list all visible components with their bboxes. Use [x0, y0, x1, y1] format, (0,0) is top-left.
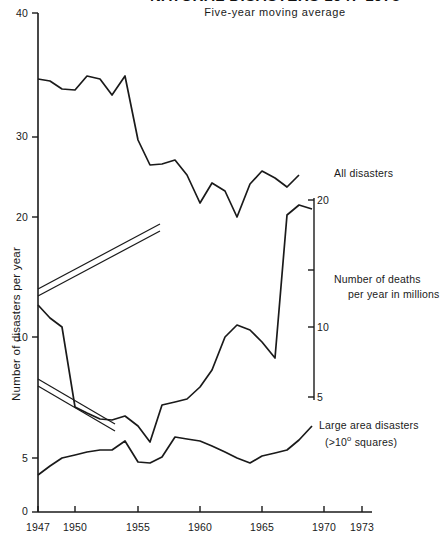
left-axis-ticks	[32, 13, 38, 512]
bottom-axis-ticks	[38, 506, 362, 512]
series-all-disasters	[38, 76, 299, 217]
trend-line-lower	[38, 379, 115, 431]
series-deaths	[38, 205, 312, 442]
trend-line-upper	[38, 224, 160, 296]
right-axis-ticks	[308, 200, 314, 397]
series-large-area-disasters	[38, 426, 312, 475]
